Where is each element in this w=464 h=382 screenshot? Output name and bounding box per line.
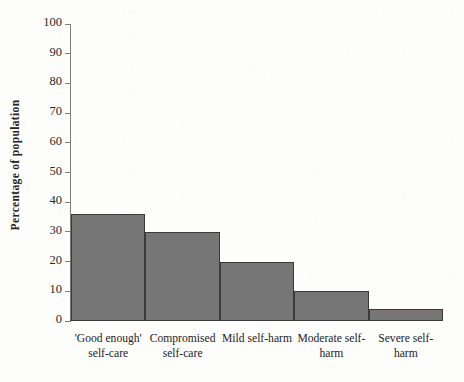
y-axis-tick-label: 50 [16, 164, 62, 179]
bar [71, 214, 145, 321]
x-axis-label-line: Compromised [145, 331, 219, 346]
bar [145, 232, 219, 321]
y-axis-tick-mark [65, 113, 71, 114]
y-axis-tick-mark [65, 172, 71, 173]
x-axis-label-line: self-care [71, 346, 145, 361]
plot-area: 0102030405060708090100 [71, 24, 443, 321]
y-axis-tick-label: 70 [16, 104, 62, 119]
x-axis-label: Compromisedself-care [145, 331, 219, 361]
y-axis-tick-label: 30 [16, 223, 62, 238]
y-axis-tick-mark [65, 83, 71, 84]
y-axis-tick-label: 0 [16, 312, 62, 327]
bar [369, 309, 443, 321]
x-axis-label-line: 'Good enough' [71, 331, 145, 346]
bar-chart-figure: Percentage of population 010203040506070… [0, 0, 464, 382]
y-axis-tick-mark [65, 24, 71, 25]
y-axis-tick-label: 100 [16, 15, 62, 30]
x-axis-label: Moderate self-harm [294, 331, 368, 361]
y-axis-tick-label: 60 [16, 134, 62, 149]
y-axis-tick-mark [65, 53, 71, 54]
x-axis-label-line: Severe self-harm [369, 331, 443, 361]
x-axis-label-line: Moderate self- [294, 331, 368, 346]
x-axis-label-line: self-care [145, 346, 219, 361]
y-axis-tick-label: 40 [16, 193, 62, 208]
x-axis-label: 'Good enough'self-care [71, 331, 145, 361]
bar [220, 262, 294, 321]
y-axis-tick-mark [65, 202, 71, 203]
x-axis-label-line: Mild self-harm [220, 331, 294, 346]
y-axis-tick-label: 80 [16, 74, 62, 89]
x-axis-label: Severe self-harm [369, 331, 443, 361]
bar [294, 291, 368, 321]
y-axis-tick-label: 20 [16, 253, 62, 268]
y-axis-tick-label: 10 [16, 282, 62, 297]
x-axis-label-line: harm [294, 346, 368, 361]
x-axis-label: Mild self-harm [220, 331, 294, 346]
y-axis-tick-mark [65, 142, 71, 143]
y-axis-tick-label: 90 [16, 45, 62, 60]
